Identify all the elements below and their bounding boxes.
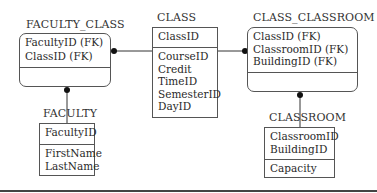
attribute: Credit xyxy=(158,63,212,76)
entity-faculty: FacultyID FirstName LastName xyxy=(39,123,95,176)
key-section: FacultyID (FK) ClassID (FK) xyxy=(20,34,110,68)
entity-class: ClassID CourseID Credit TimeID SemesterI… xyxy=(152,27,218,118)
attribute: TimeID xyxy=(158,75,212,88)
relationship-dot-icon xyxy=(64,87,70,93)
key-section: ClassroomID BuildingID xyxy=(265,128,334,160)
entity-title-faculty: FACULTY xyxy=(43,107,97,120)
attribute: Capacity xyxy=(270,162,329,176)
attribute: DayID xyxy=(158,100,212,113)
attribute-section: CourseID Credit TimeID SemesterID DayID xyxy=(153,48,217,115)
attribute: ClassID (FK) xyxy=(253,30,352,43)
relationship-dot-icon xyxy=(111,48,117,54)
key-section: ClassID (FK) ClassroomID (FK) BuildingID… xyxy=(248,28,357,73)
entity-title-class-classroom: CLASS_CLASSROOM xyxy=(253,11,375,24)
bottom-divider xyxy=(0,190,377,192)
key-section: ClassID xyxy=(153,28,217,48)
attribute: ClassroomID xyxy=(270,130,329,143)
attribute: ClassID xyxy=(158,30,212,44)
attribute: FacultyID (FK) xyxy=(25,36,105,50)
attribute: CourseID xyxy=(158,50,212,63)
entity-title-faculty-class: FACULTY_CLASS xyxy=(26,18,125,31)
attribute: ClassID (FK) xyxy=(25,50,105,64)
entity-title-classroom: CLASSROOM xyxy=(269,111,346,124)
relationship-dot-icon xyxy=(297,92,303,98)
key-section: FacultyID xyxy=(40,124,94,145)
attribute: BuildingID xyxy=(270,143,329,156)
entity-title-class: CLASS xyxy=(157,11,196,24)
attribute: BuildingID (FK) xyxy=(253,55,352,68)
attribute: LastName xyxy=(45,160,89,173)
attribute-section: Capacity xyxy=(265,160,334,178)
attribute-section: FirstName LastName xyxy=(40,145,94,174)
entity-class-classroom: ClassID (FK) ClassroomID (FK) BuildingID… xyxy=(247,27,358,92)
attribute-section xyxy=(20,68,110,72)
entity-classroom: ClassroomID BuildingID Capacity xyxy=(264,127,335,178)
attribute: FacultyID xyxy=(45,126,89,140)
entity-faculty-class: FacultyID (FK) ClassID (FK) xyxy=(19,33,111,87)
attribute-section xyxy=(248,73,357,77)
attribute: ClassroomID (FK) xyxy=(253,43,352,56)
attribute: FirstName xyxy=(45,147,89,160)
attribute: SemesterID xyxy=(158,88,212,101)
